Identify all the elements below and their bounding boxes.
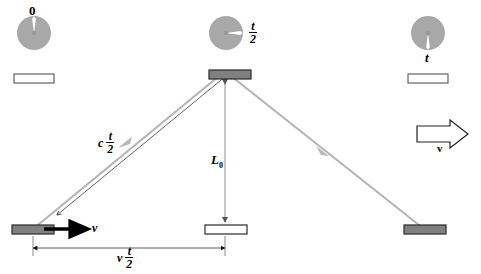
clock-start <box>17 16 51 50</box>
ray-left-den: 2 <box>106 142 114 155</box>
clock-end <box>411 16 445 50</box>
clock-middle-label: t 2 <box>249 21 257 46</box>
ray-downward <box>231 76 424 229</box>
velocity-label-small: v <box>92 221 97 236</box>
clock-start-label: 0 <box>29 3 36 19</box>
clock-hub <box>426 31 431 36</box>
mirror-bottom-middle <box>205 225 247 234</box>
ray-left-length-label: c t 2 <box>98 131 114 156</box>
clock-middle <box>209 16 243 50</box>
vertical-length-subscript: 0 <box>219 161 223 170</box>
dimension-ct2 <box>57 71 232 215</box>
baseline-den: 2 <box>125 257 133 270</box>
diagram-svg <box>0 0 481 274</box>
diagram-canvas: 0 t 2 t c t 2 L0 v t 2 v v <box>0 0 481 274</box>
mirror-ghost-right <box>408 74 448 83</box>
baseline-prefix: v <box>117 251 122 266</box>
ray-left-prefix: c <box>98 136 103 151</box>
clock-hub <box>224 31 229 36</box>
mirror-ghost-left <box>14 74 54 83</box>
mirror-bottom-end <box>404 225 446 234</box>
vertical-length-label: L0 <box>211 152 223 170</box>
clock-hub <box>32 31 37 36</box>
baseline-num: t <box>125 245 133 257</box>
clock-middle-label-den: 2 <box>249 32 257 45</box>
ray-left-num: t <box>106 130 114 142</box>
mirror-top-detector <box>209 70 251 79</box>
ray-upward-arrowhead <box>118 137 132 149</box>
clock-end-label: t <box>425 50 429 66</box>
clock-middle-label-num: t <box>249 20 257 32</box>
ray-upward <box>33 76 219 229</box>
baseline-length-label: v t 2 <box>117 246 133 271</box>
vertical-length-letter: L <box>211 152 219 167</box>
velocity-label-big: v <box>437 142 443 154</box>
